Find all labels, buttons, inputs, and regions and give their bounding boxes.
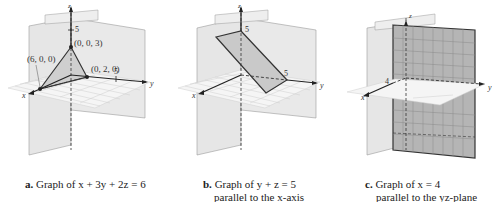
svg-text:5: 5: [284, 69, 288, 78]
panel-a: z y x 5 5 (0, 0, 3) (0, 2, 0) (6, 0, 0) …: [0, 0, 167, 202]
caption-c: c. Graph of x = 4 parallel to the yz-pla…: [365, 178, 477, 202]
svg-text:(0, 0, 3): (0, 0, 3): [74, 38, 103, 48]
svg-text:x: x: [360, 93, 365, 102]
panel-b: z y x 5 5 b. Graph of y + z = 5 parallel…: [170, 0, 337, 202]
svg-text:(0, 2, 0): (0, 2, 0): [91, 64, 120, 74]
svg-text:5: 5: [75, 25, 79, 34]
graph-a: z y x 5 5 (0, 0, 3) (0, 2, 0) (6, 0, 0): [0, 0, 167, 160]
caption-a: a. Graph of x + 3y + 2z = 6: [25, 178, 146, 191]
panel-c: z y x 4 c. Graph of x = 4 parallel to th…: [335, 0, 501, 202]
svg-text:x: x: [191, 91, 196, 100]
svg-text:y: y: [319, 81, 324, 90]
svg-text:4: 4: [385, 77, 389, 86]
caption-b: b. Graph of y + z = 5 parallel to the x-…: [203, 178, 304, 202]
svg-text:z: z: [237, 2, 241, 10]
svg-text:5: 5: [245, 25, 249, 34]
graph-c: z y x 4: [335, 0, 501, 160]
svg-text:y: y: [487, 83, 492, 92]
svg-text:y: y: [149, 79, 154, 88]
svg-text:(6, 0, 0): (6, 0, 0): [27, 54, 56, 64]
graph-b: z y x 5 5: [170, 0, 337, 160]
svg-text:z: z: [408, 12, 412, 20]
svg-text:x: x: [21, 91, 26, 100]
z-axis-label: z: [67, 2, 71, 10]
